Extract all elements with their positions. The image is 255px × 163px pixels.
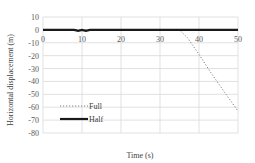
y-tick-label: -30 bbox=[28, 65, 39, 74]
y-tick-label: 0 bbox=[35, 26, 39, 35]
y-tick-label: -60 bbox=[28, 103, 39, 112]
y-axis-ticks: 100-10-20-30-40-50-60-70-80 bbox=[28, 13, 39, 138]
x-tick-label: 10 bbox=[78, 35, 86, 44]
y-tick-label: -50 bbox=[28, 90, 39, 99]
y-tick-label: -40 bbox=[28, 77, 39, 86]
gridlines bbox=[43, 17, 238, 133]
series-full-line bbox=[43, 30, 238, 111]
legend-half-label: Half bbox=[89, 115, 104, 124]
y-tick-label: -10 bbox=[28, 39, 39, 48]
x-tick-label: 20 bbox=[117, 35, 125, 44]
chart: 100-10-20-30-40-50-60-70-80 01020304050 … bbox=[0, 0, 255, 163]
y-tick-label: 10 bbox=[31, 13, 39, 22]
x-tick-label: 30 bbox=[156, 35, 164, 44]
x-tick-label: 50 bbox=[234, 35, 242, 44]
series-half-line bbox=[43, 30, 238, 31]
series-lines bbox=[43, 30, 238, 111]
x-tick-label: 0 bbox=[41, 35, 45, 44]
y-axis-label: Horizontal displacement (m) bbox=[6, 34, 15, 126]
x-axis-label: Time (s) bbox=[126, 151, 153, 160]
legend-full-label: Full bbox=[89, 102, 103, 111]
x-tick-label: 40 bbox=[195, 35, 203, 44]
y-tick-label: -70 bbox=[28, 116, 39, 125]
y-tick-label: -20 bbox=[28, 52, 39, 61]
y-tick-label: -80 bbox=[28, 129, 39, 138]
